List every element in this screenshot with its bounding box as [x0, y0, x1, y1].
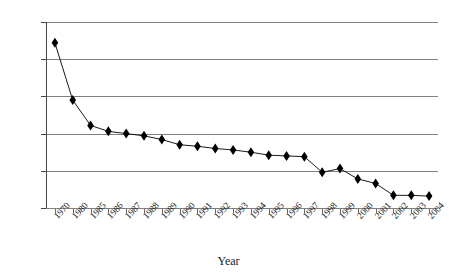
data-point-marker [123, 129, 130, 139]
y-axis-tick-mark [41, 208, 46, 209]
data-point-marker [390, 190, 397, 200]
data-point-marker [248, 147, 255, 157]
x-axis-title: Year [0, 254, 457, 269]
data-series-line [46, 22, 438, 209]
data-point-marker [372, 178, 379, 188]
y-axis-tick-mark [41, 96, 46, 97]
data-point-marker [319, 167, 326, 177]
data-point-marker [52, 38, 59, 48]
chart-figure: Year 05010015020025019701980198519861987… [0, 0, 457, 278]
data-point-marker [265, 150, 272, 160]
data-point-marker [355, 174, 362, 184]
y-axis-tick-mark [41, 59, 46, 60]
y-axis-tick-mark [41, 134, 46, 135]
data-point-marker [230, 145, 237, 155]
data-point-marker [105, 126, 112, 136]
data-point-marker [141, 131, 148, 141]
data-point-marker [426, 191, 433, 201]
data-point-marker [408, 190, 415, 200]
data-point-marker [301, 152, 308, 162]
data-point-marker [159, 135, 166, 145]
y-axis-tick-mark [41, 171, 46, 172]
data-point-marker [194, 141, 201, 151]
y-axis-tick-mark [41, 22, 46, 23]
data-point-marker [337, 164, 344, 174]
series-polyline [55, 43, 429, 196]
data-point-marker [283, 151, 290, 161]
data-point-marker [212, 143, 219, 153]
data-point-marker [176, 140, 183, 150]
